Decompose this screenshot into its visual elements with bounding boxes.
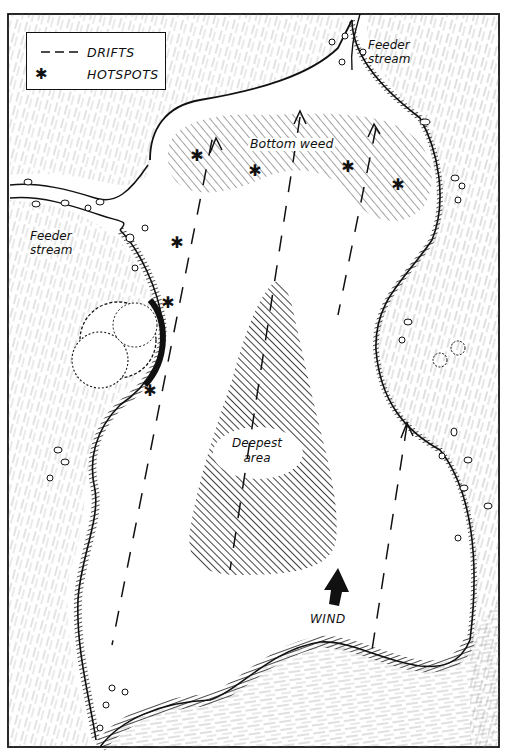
label-feeder-stream-top-right: Feeder stream [368,38,410,67]
label-feeder-stream-left: Feeder stream [30,229,72,258]
legend-item-drifts: DRIFTS [27,41,167,61]
legend-label: HOTSPOTS [87,67,159,82]
lake-map: ✱ ✱ ✱ ✱ ✱ ✱ ✱ [0,0,510,754]
label-bottom-weed: Bottom weed [248,138,335,151]
asterisk-icon: ✱ [35,65,75,77]
hotspot-asterisk-icon: ✱ [341,157,354,176]
legend-label: DRIFTS [87,45,135,60]
hotspot-asterisk-icon: ✱ [170,233,183,252]
dashed-line-icon [41,45,81,57]
hotspot-asterisk-icon: ✱ [391,175,404,194]
legend-item-hotspots: ✱ HOTSPOTS [27,63,167,83]
hotspot-asterisk-icon: ✱ [161,293,174,312]
hotspot-asterisk-icon: ✱ [248,161,261,180]
hotspot-asterisk-icon: ✱ [143,381,156,400]
label-deepest-area: Deepest area [232,436,282,466]
legend: DRIFTS ✱ HOTSPOTS [26,32,166,90]
hotspot-asterisk-icon: ✱ [190,146,203,165]
label-wind: WIND [310,613,346,625]
